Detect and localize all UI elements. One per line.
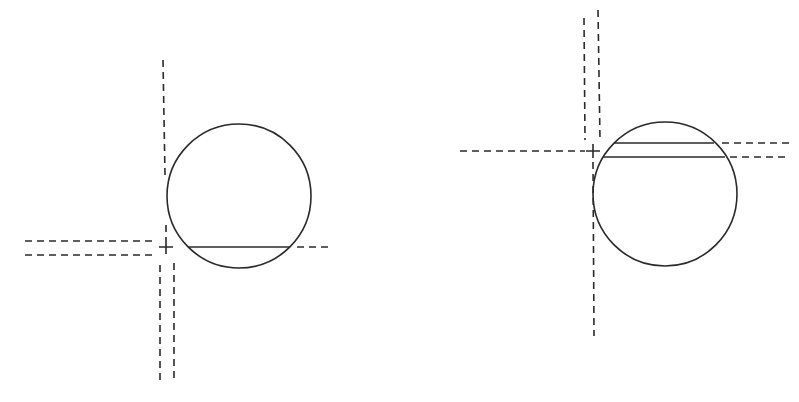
crosshair-marker bbox=[586, 144, 600, 158]
diagram-canvas bbox=[0, 0, 799, 402]
right-figure bbox=[460, 10, 789, 336]
dashed-line-vertical-top bbox=[163, 60, 165, 175]
dashed-line-vertical-top-left bbox=[584, 18, 585, 140]
circle-chord-diagram bbox=[0, 0, 799, 402]
left-figure bbox=[25, 60, 331, 384]
dashed-line-vertical-top-right bbox=[598, 10, 600, 140]
crosshair-marker bbox=[159, 240, 173, 254]
dashed-line-vertical-bottom bbox=[593, 162, 594, 336]
